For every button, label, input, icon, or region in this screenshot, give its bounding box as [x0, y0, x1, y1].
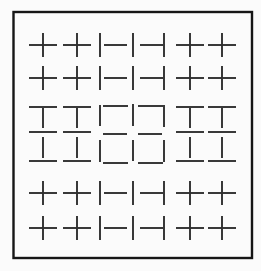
- glyph-r4c3-dash-corner-bottom-left: [100, 134, 128, 163]
- glyph-r1c7-cross: [208, 33, 236, 57]
- glyph-r6c2-cross: [63, 216, 91, 240]
- glyph-r5c7-cross: [208, 181, 236, 205]
- glyph-r5c5-hbar-vbar-right: [140, 181, 164, 205]
- glyph-r2c5-hbar-vbar-right: [140, 66, 164, 90]
- glyph-r4c7-ibeam: [208, 132, 236, 161]
- glyph-r2c3-vbar-hbar-right: [100, 66, 127, 90]
- glyph-r6c3-vbar-hbar-right: [100, 216, 127, 240]
- glyph-r2c6-cross: [176, 66, 204, 90]
- glyph-r5c6-cross: [176, 181, 204, 205]
- glyph-r3c1-tee-down: [29, 107, 57, 128]
- glyph-r1c2-cross: [63, 33, 91, 57]
- glyph-r4c6-ibeam: [176, 132, 204, 161]
- glyph-r6c6-cross: [176, 216, 204, 240]
- glyph-r6c1-cross: [29, 216, 57, 240]
- glyph-r1c3-vbar-hbar-right: [100, 33, 127, 57]
- glyph-r5c1-cross: [29, 181, 57, 205]
- glyph-r3c6-tee-down: [176, 107, 204, 128]
- glyph-r4c5-dash-corner-bottom-right: [138, 134, 164, 163]
- glyph-r2c7-cross: [208, 66, 236, 90]
- glyph-r3c5-corner-top-right: [138, 105, 164, 127]
- stimulus-svg: [0, 0, 261, 271]
- glyph-r2c1-cross: [29, 66, 57, 90]
- glyph-r1c5-hbar-vbar-right: [140, 33, 164, 57]
- glyph-r6c7-cross: [208, 216, 236, 240]
- glyph-r3c7-tee-down: [208, 107, 236, 128]
- glyph-r3c2-tee-down: [63, 107, 91, 128]
- glyph-r4c2-ibeam: [63, 132, 91, 161]
- glyph-r1c6-cross: [176, 33, 204, 57]
- glyph-r3c3-corner-top-left: [100, 105, 128, 126]
- glyph-r5c2-cross: [63, 181, 91, 205]
- glyph-r1c1-cross: [29, 33, 57, 57]
- glyph-r6c5-hbar-vbar-right: [140, 216, 164, 240]
- scanned-figure-page: [0, 0, 261, 271]
- glyph-r4c1-ibeam: [29, 132, 57, 161]
- glyph-r5c3-vbar-hbar-right: [100, 181, 127, 205]
- glyph-r2c2-cross: [63, 66, 91, 90]
